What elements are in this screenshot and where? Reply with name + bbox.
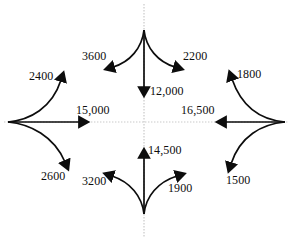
label-south-left-turn: 3200 (82, 175, 106, 187)
intersection-arrow-graphic (0, 0, 292, 241)
north-approach-arrows (113, 30, 175, 88)
north-right-turn-arrow (113, 30, 144, 67)
label-north-left-turn: 2200 (183, 50, 207, 62)
label-north-through: 12,000 (150, 85, 184, 97)
east-approach-arrows (225, 79, 285, 164)
label-south-through: 14,500 (148, 144, 182, 156)
label-east-left-turn: 1800 (237, 68, 261, 80)
south-left-turn-arrow (112, 176, 144, 214)
label-west-through: 15,000 (76, 104, 110, 116)
label-east-right-turn: 1500 (226, 174, 250, 186)
label-south-right-turn: 1900 (168, 182, 192, 194)
label-west-right-turn: 2600 (41, 170, 65, 182)
label-west-left-turn: 2400 (29, 70, 53, 82)
west-right-turn-arrow (8, 122, 65, 162)
west-left-turn-arrow (8, 80, 61, 122)
east-left-turn-arrow (232, 79, 285, 122)
label-north-right-turn: 3600 (82, 50, 106, 62)
traffic-flow-diagram: 3600 2200 12,000 2400 15,000 2600 1800 1… (0, 0, 292, 241)
east-right-turn-arrow (231, 122, 285, 164)
north-left-turn-arrow (144, 30, 175, 67)
label-east-through: 16,500 (181, 104, 215, 116)
west-approach-arrows (8, 80, 80, 162)
